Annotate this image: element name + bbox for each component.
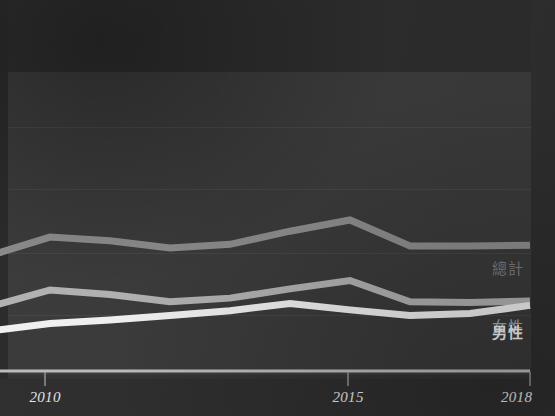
gridlines-group <box>8 128 531 316</box>
series-line-男性 <box>0 303 530 330</box>
series-group <box>0 220 530 331</box>
x-tick-label-2010: 2010 <box>30 389 61 406</box>
chart-screenshot: 201020152018 總計女性男性 <box>0 0 555 416</box>
x-axis-group <box>0 371 530 386</box>
x-tick-label-2018: 2018 <box>501 389 532 406</box>
x-tick-label-2015: 2015 <box>333 389 364 406</box>
series-line-女性 <box>0 280 530 306</box>
series-line-總計 <box>0 220 530 256</box>
series-label-男性: 男性 <box>492 321 524 342</box>
series-label-總計: 總計 <box>492 257 524 278</box>
chart-canvas <box>0 0 555 416</box>
